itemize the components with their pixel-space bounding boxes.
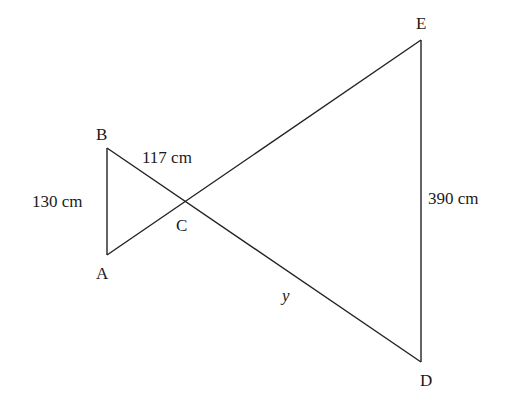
segment-bd: [107, 148, 421, 362]
length-label-cd: y: [280, 286, 290, 305]
point-label-b: B: [96, 125, 107, 144]
point-label-a: A: [96, 264, 109, 283]
point-label-e: E: [416, 14, 426, 33]
point-label-d: D: [420, 371, 432, 390]
length-label-ed: 390 cm: [428, 189, 479, 208]
length-label-bc: 117 cm: [142, 148, 192, 167]
length-label-ab: 130 cm: [32, 192, 83, 211]
similar-triangles-diagram: B A C E D 130 cm 117 cm 390 cm y: [0, 0, 512, 407]
point-label-c: C: [176, 216, 187, 235]
